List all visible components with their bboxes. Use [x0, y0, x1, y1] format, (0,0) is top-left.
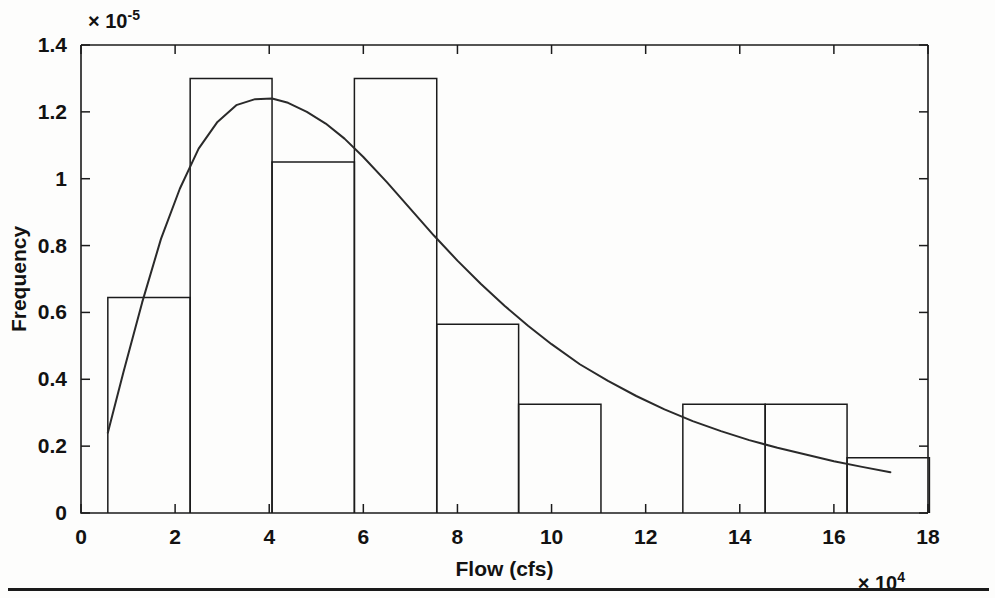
y-tick-label: 0.4	[38, 367, 68, 390]
y-tick-label: 1.4	[38, 33, 68, 56]
x-tick-label: 4	[263, 525, 275, 548]
histogram-bar	[108, 297, 190, 513]
x-tick-label: 2	[169, 525, 181, 548]
y-tick-label: 0.2	[38, 434, 67, 457]
x-axis-title: Flow (cfs)	[456, 557, 554, 580]
y-tick-label: 0.8	[38, 234, 68, 257]
histogram-bar	[519, 404, 601, 513]
histogram-bar	[437, 324, 519, 513]
x-tick-label: 10	[540, 525, 563, 548]
y-tick-label: 1.2	[38, 100, 67, 123]
histogram-bar	[683, 404, 765, 513]
y-axis-exponent-power: -5	[127, 7, 140, 23]
x-tick-label: 6	[357, 525, 369, 548]
histogram-chart: 02468101214161800.20.40.60.811.21.4Flow …	[0, 0, 995, 598]
histogram-bar	[354, 78, 436, 513]
y-tick-label: 1	[55, 167, 67, 190]
axis-spines	[81, 45, 928, 513]
y-axis-exponent: × 10-5	[88, 7, 140, 32]
figure-canvas: 02468101214161800.20.40.60.811.21.4Flow …	[0, 0, 995, 598]
histogram-bar	[272, 162, 354, 513]
histogram-bar	[765, 404, 847, 513]
x-tick-label: 8	[452, 525, 464, 548]
x-tick-label: 16	[822, 525, 845, 548]
x-tick-label: 14	[728, 525, 752, 548]
x-tick-label: 18	[916, 525, 940, 548]
page-footer-rule	[8, 588, 989, 591]
y-tick-label: 0.6	[38, 300, 67, 323]
x-axis-exponent-power: 4	[897, 569, 905, 585]
fitted-density-curve	[108, 98, 891, 472]
x-tick-label: 12	[634, 525, 657, 548]
y-tick-label: 0	[55, 501, 67, 524]
x-tick-label: 0	[75, 525, 87, 548]
y-axis-title: Frequency	[7, 226, 30, 333]
